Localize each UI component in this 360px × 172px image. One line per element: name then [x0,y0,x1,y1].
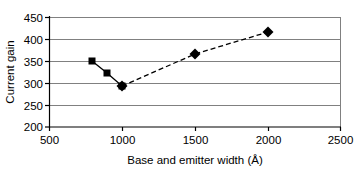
plot-area-background [49,17,341,127]
y-tick-label-300: 300 [24,78,43,90]
y-tick-label-350: 350 [24,56,43,68]
x-axis-tick-labels: 500 1000 1500 2000 2500 [40,134,353,146]
chart-figure: 450 400 350 300 250 200 500 1000 1500 20… [0,0,360,172]
current-gain-line-chart: 450 400 350 300 250 200 500 1000 1500 20… [0,0,360,172]
y-axis-ticks [45,18,49,128]
x-tick-label-1000: 1000 [110,134,136,146]
cropped-caption-text [46,0,336,1]
y-axis-tick-labels: 450 400 350 300 250 200 [24,12,43,134]
data-point-900-322 [104,70,111,77]
y-axis-title: Current gain [4,40,16,103]
y-tick-label-450: 450 [24,12,43,24]
x-tick-label-500: 500 [40,134,59,146]
y-tick-label-200: 200 [24,121,43,133]
data-point-800-350 [89,58,96,65]
y-tick-label-400: 400 [24,34,43,46]
x-tick-label-2000: 2000 [256,134,282,146]
x-axis-title: Base and emitter width (Å) [127,154,263,166]
x-tick-label-1500: 1500 [183,134,209,146]
x-tick-label-2500: 2500 [328,134,354,146]
y-tick-label-250: 250 [24,100,43,112]
